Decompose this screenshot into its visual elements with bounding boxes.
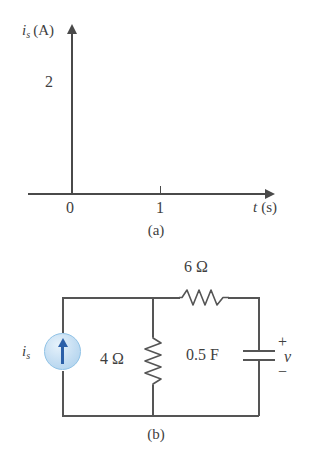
voltage-minus-sign: − [278, 364, 287, 380]
wire-bottom [62, 415, 259, 417]
panel-a-graph: is(A) 2 0 1 t(s) (a) [0, 0, 312, 245]
capacitor-plate-top [243, 350, 275, 352]
y-axis-line [71, 33, 73, 194]
resistor-6ohm-symbol [179, 286, 229, 309]
y-tick-label-2: 2 [45, 74, 53, 90]
wire-left-upper [62, 297, 64, 333]
panel-b-caption: (b) [0, 426, 312, 443]
capacitor-label: 0.5 F [186, 347, 219, 363]
y-axis-label: is(A) [22, 23, 54, 40]
current-source-arrow-shaft [61, 346, 64, 364]
panel-a-caption: (a) [0, 222, 312, 239]
x-axis-line [28, 193, 266, 195]
resistor-6ohm-label: 6 Ω [184, 259, 208, 275]
x-axis-label-unit: (s) [261, 199, 277, 215]
y-axis-label-unit: (A) [33, 22, 54, 38]
panel-b-circuit: is 4 Ω 6 Ω 0.5 F + v − (b) [0, 245, 312, 469]
x-axis-label-symbol: t [253, 199, 257, 215]
x-tick-label-0: 0 [66, 200, 74, 216]
wire-top-left [62, 297, 180, 299]
resistor-4ohm-symbol [141, 335, 165, 387]
capacitor-plate-bottom [243, 359, 275, 361]
figure-container: is(A) 2 0 1 t(s) (a) [0, 0, 312, 469]
current-source-arrow-head [58, 338, 68, 347]
x-tick-mark-1 [160, 186, 161, 194]
wire-left-lower [62, 371, 64, 416]
current-source-label: is [22, 344, 30, 361]
wire-right-upper [258, 297, 260, 351]
y-axis-label-subscript: s [26, 29, 30, 40]
wire-top-right [228, 297, 259, 299]
resistor-4ohm-label: 4 Ω [100, 351, 124, 367]
wire-middle-upper [152, 297, 154, 337]
x-tick-label-1: 1 [156, 200, 164, 216]
wire-middle-lower [152, 385, 154, 416]
wire-right-lower [258, 361, 260, 416]
x-axis-label: t(s) [253, 200, 277, 215]
current-source-label-subscript: s [26, 350, 30, 361]
x-axis-arrowhead [265, 189, 275, 199]
